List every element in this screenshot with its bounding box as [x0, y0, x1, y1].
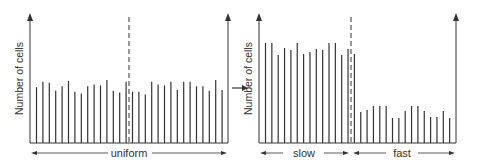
y-axis-arrow-icon: [27, 13, 33, 21]
x-label-fast: fast: [393, 147, 411, 159]
cell-distribution-diagram: Number of cells uniform Number of cells …: [0, 0, 478, 163]
x-label-slow: slow: [293, 147, 315, 159]
bars-slow-fast: [266, 43, 450, 143]
arrow-left-icon: [260, 151, 266, 155]
arrow-right-icon: [343, 151, 349, 155]
panel-uniform: Number of cells uniform: [13, 13, 231, 159]
arrow-right-icon: [449, 151, 455, 155]
y-axis-label: Number of cells: [13, 42, 25, 115]
y-axis-label: Number of cells: [242, 42, 254, 115]
arrow-right-icon: [221, 151, 227, 155]
y-axis-right-arrow-icon: [225, 13, 231, 21]
panel-slow-fast: Number of cells slow fast: [242, 13, 459, 159]
y-axis-arrow-icon: [256, 13, 262, 21]
y-axis-right-arrow-icon: [453, 13, 459, 21]
arrow-left-icon: [353, 151, 359, 155]
x-label-uniform: uniform: [111, 147, 148, 159]
arrow-left-icon: [31, 151, 37, 155]
